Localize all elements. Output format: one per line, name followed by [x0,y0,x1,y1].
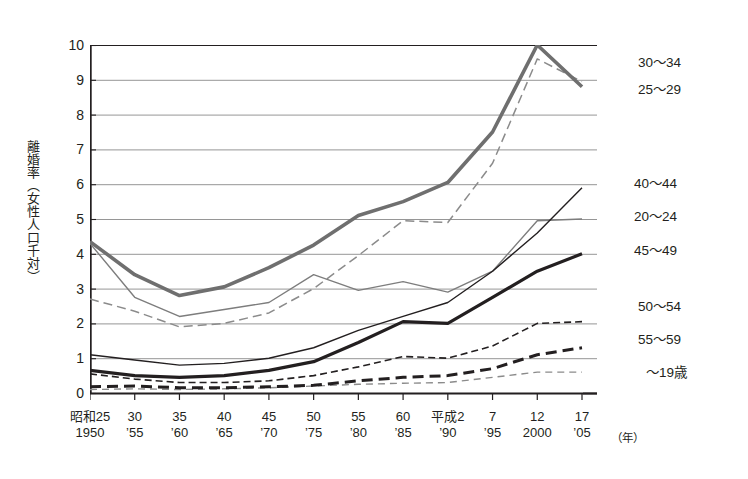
series-label-55_59: 55〜59 [638,333,681,347]
y-tick-3: 3 [50,282,84,296]
plot-area [90,45,597,393]
x-tick-year: ’05 [552,425,612,441]
chart-figure: 離婚率（女性人口千対） 109876543210 昭和25195030’5535… [0,0,748,479]
series-line-20〜24 [90,219,582,316]
series-label-45_49: 45〜49 [634,244,677,258]
series-label-20_24: 20〜24 [634,210,677,224]
y-tick-4: 4 [50,247,84,261]
y-tick-9: 9 [50,73,84,87]
y-tick-1: 1 [50,351,84,365]
series-label-30_34: 30〜34 [638,56,681,70]
y-tick-7: 7 [50,142,84,156]
series-label-25_29: 25〜29 [638,83,681,97]
chart-svg [90,45,597,401]
x-tick-era: 17 [552,409,612,425]
series-label-50_54: 50〜54 [638,300,681,314]
y-axis-tick-labels: 109876543210 [46,0,84,479]
y-tick-10: 10 [50,38,84,52]
y-axis-title: 離婚率（女性人口千対） [14,140,40,283]
y-tick-5: 5 [50,212,84,226]
y-tick-2: 2 [50,316,84,330]
y-tick-8: 8 [50,108,84,122]
x-axis-unit-label: （年） [611,429,644,445]
y-tick-0: 0 [50,386,84,400]
series-label-40_44: 40〜44 [634,177,677,191]
y-tick-6: 6 [50,177,84,191]
x-tick-label-11: 17’05 [552,409,612,441]
series-label-19: 〜19歳 [646,366,687,380]
